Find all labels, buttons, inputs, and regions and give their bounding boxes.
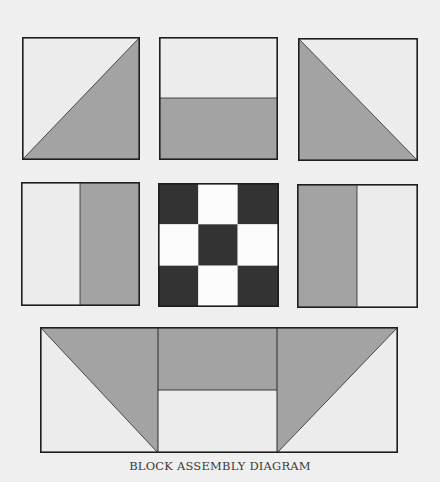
block-middle-right-split	[297, 184, 418, 308]
block-top-left-hst	[22, 37, 140, 160]
block-middle-left-split	[21, 182, 140, 306]
block-top-center-split	[159, 37, 278, 160]
block-top-right-hst	[298, 38, 418, 161]
block-bottom-strip	[40, 327, 398, 453]
diagram-caption: BLOCK ASSEMBLY DIAGRAM	[0, 459, 440, 473]
block-nine-patch	[158, 183, 279, 307]
